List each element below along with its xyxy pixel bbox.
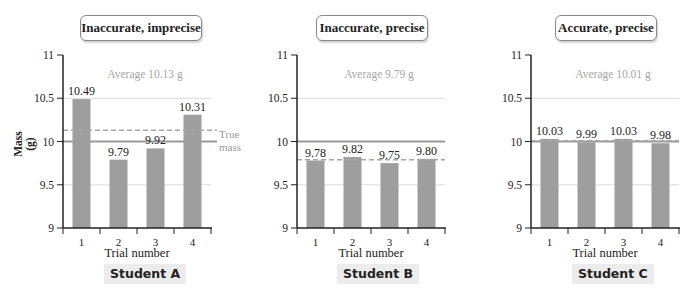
average-label: Average 10.13 g: [107, 68, 183, 81]
average-label: Average 9.79 g: [344, 68, 414, 81]
bar: [344, 157, 362, 228]
y-tick-label: 10: [43, 136, 55, 148]
bar-value-label: 9.92: [145, 133, 166, 147]
y-tick-label: 11: [43, 49, 54, 61]
bar: [307, 161, 325, 228]
y-tick-label: 9: [48, 222, 54, 234]
x-tick-label: 1: [547, 236, 553, 248]
y-tick-label: 11: [277, 49, 288, 61]
true-mass-label: mass: [219, 141, 241, 153]
y-tick-label: 10: [511, 136, 523, 148]
y-tick-label: 9: [282, 222, 288, 234]
bar-value-label: 10.03: [610, 124, 637, 138]
bar: [652, 143, 670, 228]
y-tick-label: 9.5: [40, 179, 55, 191]
x-tick-label: 4: [658, 236, 664, 248]
bar-value-label: 9.80: [416, 144, 437, 158]
bar-value-label: 10.31: [179, 100, 206, 114]
bar: [73, 99, 91, 228]
bar-value-label: 10.03: [536, 124, 563, 138]
bar: [615, 139, 633, 228]
bar: [147, 148, 165, 228]
y-tick-label: 9.5: [508, 179, 523, 191]
x-tick-label: 1: [79, 236, 85, 248]
average-label: Average 10.01 g: [575, 68, 651, 81]
x-tick-label: 4: [424, 236, 430, 248]
y-tick-label: 9.5: [274, 179, 289, 191]
y-tick-label: 10.5: [268, 92, 288, 104]
y-tick-label: 10.5: [34, 92, 54, 104]
bar-value-label: 9.99: [576, 127, 597, 141]
x-tick-label: 4: [190, 236, 196, 248]
y-tick-label: 10: [277, 136, 289, 148]
bar-value-label: 10.49: [68, 84, 95, 98]
bar: [184, 115, 202, 228]
bar-value-label: 9.78: [305, 146, 326, 160]
x-axis-label: Trial number: [338, 246, 404, 260]
x-tick-label: 1: [313, 236, 319, 248]
y-tick-label: 11: [511, 49, 522, 61]
bar: [578, 142, 596, 228]
bar-value-label: 9.82: [342, 142, 363, 156]
y-tick-label: 10.5: [502, 92, 522, 104]
bar: [381, 163, 399, 228]
bar: [541, 139, 559, 228]
true-mass-label: True: [219, 128, 239, 140]
y-tick-label: 9: [516, 222, 522, 234]
bar: [110, 160, 128, 228]
bar: [418, 159, 436, 228]
bar-value-label: 9.79: [108, 145, 129, 159]
x-axis-label: Trial number: [572, 246, 638, 260]
bar-charts: 10.4919.7929.92310.314Average 10.13 g99.…: [0, 0, 690, 300]
x-axis-label: Trial number: [104, 246, 170, 260]
